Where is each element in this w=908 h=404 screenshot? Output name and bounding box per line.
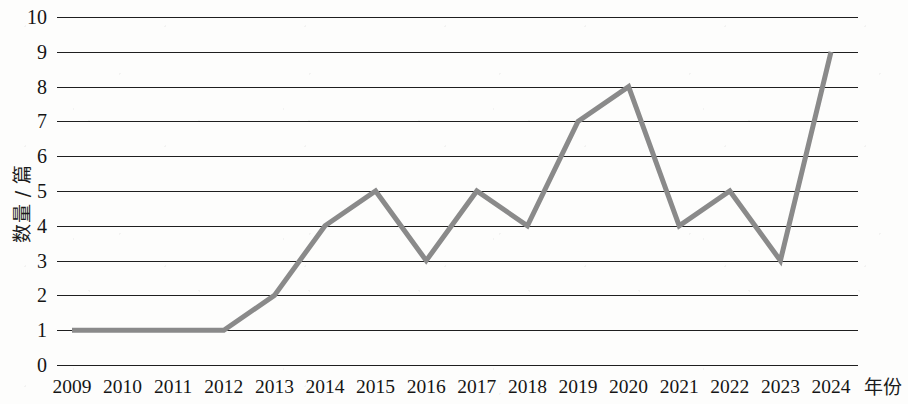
x-axis-title: 年份 <box>864 374 902 400</box>
x-axis-tick-label: 2015 <box>356 374 395 400</box>
y-axis-tick-label: 8 <box>37 77 47 97</box>
x-axis-tick-label: 2023 <box>761 374 800 400</box>
data-series-line <box>57 17 858 365</box>
x-axis-tick-label: 2010 <box>103 374 142 400</box>
x-axis-tick-label: 2024 <box>812 374 851 400</box>
x-axis-tick-label: 2009 <box>53 374 92 400</box>
y-axis-tick-label: 10 <box>27 7 47 27</box>
plot-area <box>57 17 858 365</box>
x-axis-tick-label: 2011 <box>154 374 192 400</box>
data-series-polyline <box>72 52 831 330</box>
y-axis-tick-label: 3 <box>37 251 47 271</box>
gridline <box>57 365 858 366</box>
x-axis-tick-label: 2019 <box>559 374 598 400</box>
x-axis-tick-label: 2014 <box>306 374 345 400</box>
x-axis-tick-label: 2016 <box>407 374 446 400</box>
x-axis-tick-label-group: 年份 2009201020112012201320142015201620172… <box>0 374 908 404</box>
y-axis-tick-label: 2 <box>37 285 47 305</box>
x-axis-tick-label: 2013 <box>255 374 294 400</box>
y-axis-tick-label-group: 012345678910 <box>0 0 52 404</box>
x-axis-tick-label: 2021 <box>660 374 699 400</box>
y-axis-tick-label: 7 <box>37 111 47 131</box>
y-axis-tick-label: 9 <box>37 42 47 62</box>
x-axis-tick-label: 2017 <box>457 374 496 400</box>
y-axis-tick-label: 6 <box>37 146 47 166</box>
y-axis-tick-label: 1 <box>37 320 47 340</box>
x-axis-tick-label: 2020 <box>609 374 648 400</box>
line-chart-figure: 数量 / 篇 012345678910 年份 20092010201120122… <box>0 0 908 404</box>
x-axis-tick-label: 2012 <box>204 374 243 400</box>
x-axis-tick-label: 2022 <box>710 374 749 400</box>
y-axis-tick-label: 4 <box>37 216 47 236</box>
x-axis-tick-label: 2018 <box>508 374 547 400</box>
y-axis-tick-label: 0 <box>37 355 47 375</box>
y-axis-tick-label: 5 <box>37 181 47 201</box>
